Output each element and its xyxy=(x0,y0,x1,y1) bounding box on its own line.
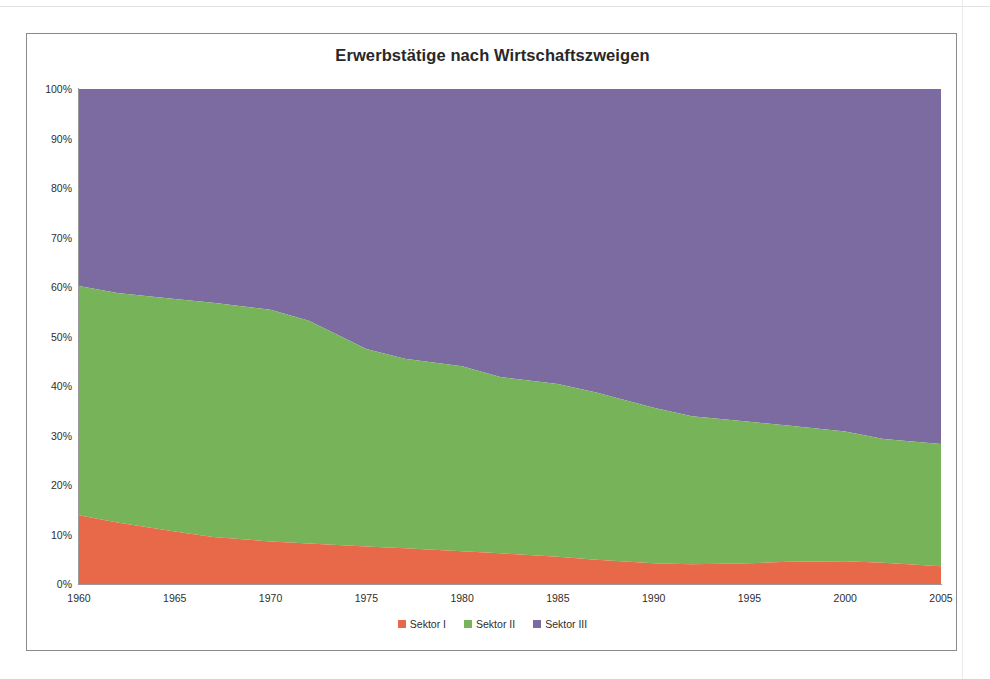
y-tick-label: 80% xyxy=(27,182,72,194)
x-tick-label: 1980 xyxy=(450,592,473,604)
legend-swatch-icon xyxy=(464,620,472,628)
x-tick-label: 1960 xyxy=(67,592,90,604)
legend-label: Sektor I xyxy=(410,618,446,630)
stacked-area-plot xyxy=(79,89,941,584)
legend-item[interactable]: Sektor II xyxy=(464,618,515,630)
x-tick-label: 1965 xyxy=(163,592,186,604)
legend-swatch-icon xyxy=(533,620,541,628)
legend-swatch-icon xyxy=(398,620,406,628)
y-tick-label: 50% xyxy=(27,331,72,343)
y-tick-label: 100% xyxy=(27,83,72,95)
plot-area xyxy=(79,89,941,584)
legend-label: Sektor II xyxy=(476,618,515,630)
y-tick-label: 20% xyxy=(27,479,72,491)
y-tick-label: 0% xyxy=(27,578,72,590)
x-tick-label: 1995 xyxy=(738,592,761,604)
chart-frame: Erwerbstätige nach Wirtschaftszweigen 0%… xyxy=(26,33,957,651)
x-axis-line xyxy=(78,584,942,585)
x-tick-label: 2005 xyxy=(929,592,952,604)
x-axis-tick-labels: 1960196519701975198019851990199520002005 xyxy=(79,592,941,610)
legend-label: Sektor III xyxy=(545,618,587,630)
y-tick-label: 70% xyxy=(27,232,72,244)
legend-item[interactable]: Sektor I xyxy=(398,618,446,630)
y-axis-tick-labels: 0%10%20%30%40%50%60%70%80%90%100% xyxy=(27,89,72,584)
scan-artifact-top xyxy=(0,6,990,7)
x-tick-label: 1970 xyxy=(259,592,282,604)
x-tick-label: 1990 xyxy=(642,592,665,604)
y-tick-label: 30% xyxy=(27,430,72,442)
x-tick-label: 2000 xyxy=(834,592,857,604)
x-tick-label: 1985 xyxy=(546,592,569,604)
y-tick-label: 90% xyxy=(27,133,72,145)
legend-item[interactable]: Sektor III xyxy=(533,618,587,630)
y-tick-label: 10% xyxy=(27,529,72,541)
scan-artifact-right xyxy=(962,0,963,679)
x-tick-label: 1975 xyxy=(355,592,378,604)
y-tick-label: 40% xyxy=(27,380,72,392)
chart-title: Erwerbstätige nach Wirtschaftszweigen xyxy=(27,46,958,65)
chart-legend: Sektor ISektor IISektor III xyxy=(27,618,958,630)
y-tick-label: 60% xyxy=(27,281,72,293)
